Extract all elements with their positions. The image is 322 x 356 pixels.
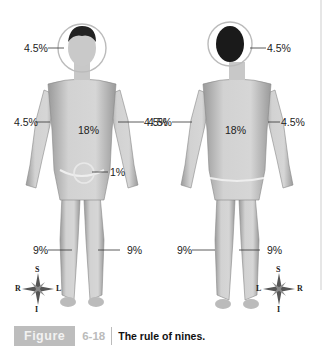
rule-of-nines-figure: 4.5% 4.5% 4.5% 18% 1% 9% 9% S I R L 4.5%… [0, 0, 322, 318]
compass-front-r: R [15, 285, 21, 293]
compass-front-s: S [35, 266, 39, 274]
front-left-leg-label: 9% [127, 245, 142, 256]
compass-back-s: S [276, 266, 280, 274]
compass-back-r: R [297, 285, 303, 293]
figure-number: 6-18 [76, 327, 112, 345]
back-left-leg-label: 9% [177, 245, 192, 256]
compass-back-l: L [256, 285, 261, 293]
front-right-leg-label: 9% [33, 245, 48, 256]
caption-text: The rule of nines. [118, 330, 205, 342]
front-head-label: 4.5% [24, 43, 48, 54]
front-trunk-label: 18% [78, 125, 99, 136]
compass-rose-front-icon [22, 273, 54, 305]
front-genitals-label: 1% [110, 167, 125, 178]
back-right-arm-label: 4.5% [281, 117, 305, 128]
back-right-leg-label: 9% [267, 245, 282, 256]
front-right-arm-label: 4.5% [14, 117, 38, 128]
back-trunk-label: 18% [225, 125, 246, 136]
compass-front-l: L [56, 285, 61, 293]
figure-caption: Figure 6-18 The rule of nines. [14, 326, 205, 346]
compass-front-i: I [35, 306, 38, 314]
back-left-arm-label: 4.5% [148, 117, 172, 128]
figure-word-badge: Figure [14, 326, 75, 346]
compass-rose-back-icon [263, 273, 295, 305]
compass-back-i: I [277, 306, 280, 314]
back-head-label: 4.5% [267, 43, 291, 54]
